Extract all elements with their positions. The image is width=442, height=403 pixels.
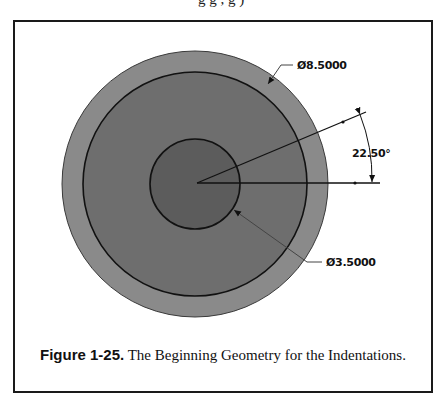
figure-caption-label: Figure 1-25.	[40, 346, 124, 363]
figure-caption: Figure 1-25. The Beginning Geometry for …	[13, 346, 433, 364]
angle-dimension-label: 22.50°	[352, 147, 391, 160]
inner-circle	[150, 139, 240, 229]
figure-caption-text: The Beginning Geometry for the Indentati…	[124, 347, 406, 363]
outer-diameter-label: Ø8.5000	[297, 59, 347, 72]
horizontal-line-point	[353, 181, 356, 184]
geometry-drawing: 22.50° Ø8.5000 Ø3.5000	[0, 0, 442, 403]
inner-diameter-label: Ø3.5000	[326, 256, 376, 269]
angled-line-point	[341, 120, 344, 123]
